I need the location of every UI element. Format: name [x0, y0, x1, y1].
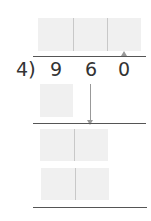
subtraction-line-1	[33, 123, 146, 124]
dividend-digit-hundreds: 9	[48, 60, 64, 79]
subtraction-line-2	[33, 207, 147, 208]
bring-down-line	[90, 84, 91, 122]
product-box-2-tens[interactable]	[41, 168, 75, 200]
remainder-box-tens[interactable]	[40, 129, 74, 161]
remainder-divider	[74, 129, 75, 161]
product-2-divider	[75, 168, 76, 200]
dividend-digit-ones: 0	[116, 60, 132, 79]
dividend-digit-tens: 6	[83, 60, 99, 79]
division-bracket: )	[27, 59, 37, 79]
division-bar	[33, 56, 146, 57]
quotient-box-ones[interactable]	[107, 18, 141, 51]
quotient-divider-1	[73, 18, 74, 51]
bring-up-arrow-icon	[121, 51, 127, 56]
quotient-box-hundreds[interactable]	[38, 18, 73, 51]
remainder-box-ones[interactable]	[74, 129, 108, 161]
quotient-box-tens[interactable]	[73, 18, 107, 51]
product-box-1[interactable]	[40, 84, 73, 117]
product-box-2-ones[interactable]	[75, 168, 109, 200]
quotient-divider-2	[107, 18, 108, 51]
